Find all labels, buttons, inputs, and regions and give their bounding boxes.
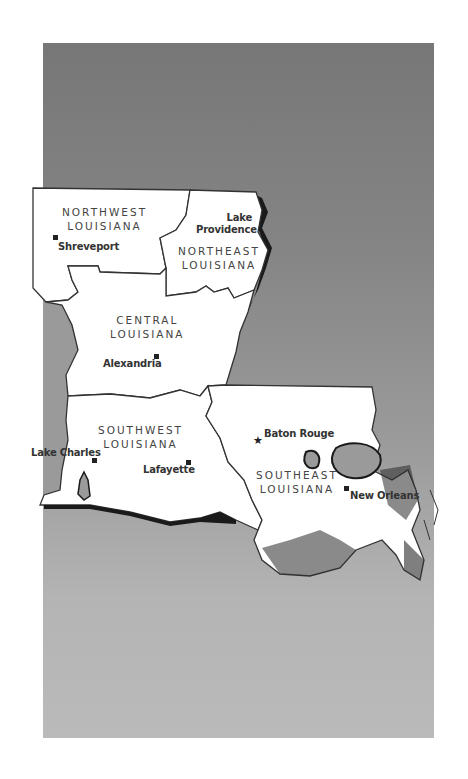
louisiana-map [0, 0, 468, 779]
region-label-southeast: SOUTHEASTLOUISIANA [256, 468, 338, 496]
region-label-northwest: NORTHWESTLOUISIANA [62, 205, 147, 233]
star-marker-icon: ★ [253, 435, 263, 446]
chandeleur-islands [424, 490, 438, 540]
city-label-baton-rouge: Baton Rouge [264, 428, 334, 440]
city-label-shreveport: Shreveport [58, 241, 119, 253]
city-label-alexandria: Alexandria [103, 358, 162, 370]
city-label-new-orleans: New Orleans [350, 490, 419, 502]
square-marker-icon [53, 235, 58, 240]
lake-maurepas [304, 451, 319, 468]
region-label-southwest: SOUTHWESTLOUISIANA [98, 423, 183, 451]
city-label-lake-charles: Lake Charles [31, 447, 101, 459]
square-marker-icon [344, 486, 349, 491]
city-label-lafayette: Lafayette [143, 464, 195, 476]
city-label-lake-providence: LakeProvidence [196, 212, 252, 236]
region-label-northeast: NORTHEASTLOUISIANA [178, 244, 260, 272]
lake-pontchartrain [332, 443, 381, 478]
region-label-central: CENTRALLOUISIANA [110, 313, 185, 341]
